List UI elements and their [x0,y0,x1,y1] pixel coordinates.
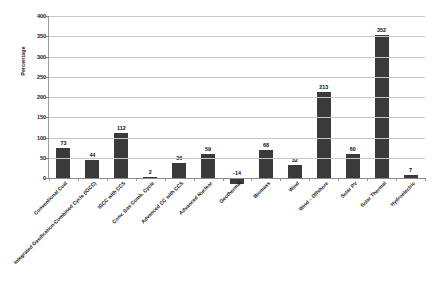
gridline [49,158,425,159]
bar-value-label: 7 [409,167,412,173]
y-axis-tickmark [46,16,49,17]
x-axis-tickmark [425,178,426,181]
y-axis-tick-label: 300 [26,54,46,60]
y-axis-tickmark [46,57,49,58]
y-axis-tickmark [46,97,49,98]
y-axis-tickmark [46,117,49,118]
gridline [49,36,425,37]
bar[interactable] [56,148,70,178]
x-axis-category-label: Biomass [252,180,271,199]
gridline [49,16,425,17]
y-axis-tick-label: 250 [26,74,46,80]
x-axis-category-label: Solar Thermal [359,180,387,208]
bar-value-label: 73 [60,140,66,146]
gridline [49,57,425,58]
bar-value-label: 59 [205,146,211,152]
y-axis-tick-label: 50 [26,155,46,161]
x-axis-category-label: Solar PV [339,180,358,199]
bar[interactable] [172,163,186,178]
bar[interactable] [85,160,99,178]
bar-value-label: 68 [263,142,269,148]
y-axis-tickmark [46,138,49,139]
bar[interactable] [288,165,302,178]
bar[interactable] [114,133,128,178]
plot-area: 734411223659-146832213603527 [48,16,424,178]
bar[interactable] [317,92,331,178]
x-axis-category-label: Hydroelectric [389,180,416,207]
bar[interactable] [259,150,273,178]
x-axis-category-label: Wind – Offshore [297,180,329,212]
bar-value-label: 352 [377,27,386,33]
y-axis-tick-label: 0 [26,175,46,181]
y-axis-tickmark [46,77,49,78]
bar-value-label: -14 [233,170,241,176]
y-axis-tick-label: 100 [26,135,46,141]
y-axis-tick-label: 350 [26,33,46,39]
x-axis-category-label: Wind [287,180,300,193]
y-axis-tick-label: 150 [26,114,46,120]
y-axis-tickmark [46,36,49,37]
x-axis-category-labels: Conventional CoalIntegrated Gasification… [48,178,424,287]
x-axis-category-label: Geothermal [218,180,242,204]
gridline [49,138,425,139]
bar-value-label: 213 [319,84,328,90]
gridline [49,117,425,118]
y-axis-tickmark [46,158,49,159]
bar-value-label: 60 [350,146,356,152]
y-axis-tick-label: 200 [26,94,46,100]
y-axis-tick-label: 400 [26,13,46,19]
gridline [49,77,425,78]
x-axis-category-label: IGCC with CCS [96,180,126,210]
bar-value-label: 112 [117,125,126,131]
gridline [49,97,425,98]
bar-chart: Percentage 400350300250200150100500 7344… [0,0,438,287]
bar-value-label: 2 [149,169,152,175]
